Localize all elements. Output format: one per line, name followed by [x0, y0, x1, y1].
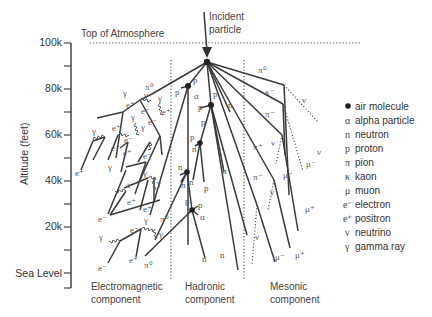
svg-text:κ: κ [345, 171, 350, 182]
svg-text:n: n [178, 162, 183, 172]
legend-air-molecule: air molecule [355, 101, 409, 112]
svg-text:e⁻: e⁻ [130, 225, 139, 235]
em-component-label-line1: Electromagnetic [91, 281, 163, 292]
svg-text:e⁺: e⁺ [126, 100, 135, 110]
mesonic-component-label-line1: Mesonic [270, 281, 307, 292]
legend-electron: electron [355, 199, 391, 210]
tick-80k: 80k [45, 82, 63, 94]
svg-text:n: n [192, 144, 197, 154]
svg-text:p: p [193, 75, 198, 85]
svg-text:p: p [185, 196, 190, 206]
svg-text:ν: ν [255, 232, 259, 242]
svg-text:γ: γ [130, 112, 135, 122]
cosmic-ray-shower-diagram: Incident particle Top of Atmosphere 100k… [0, 0, 432, 317]
svg-text:μ: μ [345, 185, 350, 196]
hadronic-component-label-line2: component [185, 294, 235, 305]
svg-text:μ⁻: μ⁻ [283, 170, 293, 180]
svg-text:μ⁺: μ⁺ [305, 204, 315, 214]
svg-text:e⁺: e⁺ [162, 107, 171, 117]
tick-60k: 60k [45, 128, 63, 140]
svg-text:p: p [198, 102, 203, 112]
em-component-label-line2: component [91, 294, 141, 305]
svg-text:γ: γ [142, 168, 147, 178]
svg-text:π⁰: π⁰ [160, 214, 169, 224]
legend-positron: positron [355, 213, 391, 224]
svg-text:e⁻: e⁻ [343, 199, 352, 210]
top-of-atmosphere-label: Top of Atmosphere [81, 28, 165, 39]
svg-text:γ: γ [140, 122, 145, 132]
svg-text:p: p [198, 200, 203, 210]
svg-text:μ⁻: μ⁻ [275, 252, 285, 262]
svg-text:e⁺: e⁺ [127, 197, 136, 207]
tick-100k: 100k [39, 36, 63, 48]
svg-text:κ⁻: κ⁻ [265, 87, 275, 97]
tick-40k: 40k [45, 174, 63, 186]
svg-text:n: n [220, 250, 225, 260]
mesonic-component-label-line2: component [270, 294, 320, 305]
svg-text:π⁺: π⁺ [253, 142, 263, 152]
svg-text:e⁺: e⁺ [343, 213, 352, 224]
svg-text:e⁻: e⁻ [143, 151, 152, 161]
svg-text:α: α [200, 212, 205, 222]
svg-text:α: α [222, 166, 227, 176]
legend-neutrino: neutrino [355, 227, 392, 238]
svg-text:e⁺: e⁺ [75, 168, 84, 178]
svg-text:ν: ν [302, 95, 306, 105]
svg-text:e⁺: e⁺ [112, 123, 121, 133]
svg-text:n: n [202, 254, 207, 264]
legend-proton: proton [355, 143, 383, 154]
svg-text:e⁺: e⁺ [123, 148, 132, 158]
svg-text:e⁻: e⁻ [127, 180, 136, 190]
svg-text:γ: γ [157, 93, 162, 103]
svg-text:ν: ν [345, 227, 350, 238]
svg-text:e⁻: e⁻ [124, 135, 133, 145]
incident-label-line2: particle [209, 24, 242, 35]
legend-muon: muon [355, 185, 380, 196]
svg-text:π⁻: π⁻ [265, 109, 275, 119]
svg-text:α: α [194, 91, 199, 101]
legend-pion: pion [355, 157, 374, 168]
svg-text:n: n [345, 129, 350, 140]
svg-text:π: π [345, 157, 350, 168]
tick-20k: 20k [45, 220, 63, 232]
svg-text:γ: γ [91, 126, 96, 136]
svg-text:π⁻: π⁻ [253, 172, 263, 182]
svg-text:π⁰: π⁰ [144, 260, 153, 270]
svg-text:γ: γ [98, 232, 103, 242]
svg-text:ν: ν [271, 138, 275, 148]
svg-text:γ: γ [107, 162, 112, 172]
legend-neutron: neutron [355, 129, 389, 140]
svg-text:n: n [181, 180, 186, 190]
svg-text:p: p [201, 117, 206, 127]
svg-text:e⁻: e⁻ [148, 117, 157, 127]
tick-sea-level: Sea Level [15, 267, 62, 279]
svg-text:p: p [204, 183, 209, 193]
svg-text:p: p [175, 87, 180, 97]
svg-text:ν: ν [317, 147, 321, 157]
svg-text:e⁻: e⁻ [98, 214, 107, 224]
svg-text:π⁰: π⁰ [258, 65, 267, 75]
legend: α n p π κ μ e⁻ e⁺ ν γ air molecule alpha… [343, 101, 415, 252]
svg-text:p: p [190, 132, 195, 142]
svg-text:α: α [345, 115, 351, 126]
svg-text:μ⁺: μ⁺ [295, 250, 305, 260]
svg-text:γ: γ [143, 90, 148, 100]
svg-text:γ: γ [156, 178, 161, 188]
svg-text:γ: γ [143, 215, 148, 225]
svg-text:p: p [345, 143, 350, 154]
svg-text:e⁺: e⁺ [129, 255, 138, 265]
svg-text:γ: γ [158, 229, 163, 239]
svg-text:n: n [189, 177, 194, 187]
svg-text:e⁻: e⁻ [111, 143, 120, 153]
svg-text:e⁻: e⁻ [98, 263, 107, 273]
incident-label-line1: Incident [209, 11, 244, 22]
svg-text:γ: γ [122, 88, 127, 98]
hadronic-component-label-line1: Hadronic [185, 281, 225, 292]
air-molecule-legend-icon [345, 103, 351, 109]
axis-label: Altitude (feet) [18, 123, 30, 185]
legend-alpha-particle: alpha particle [355, 115, 415, 126]
svg-text:e⁺: e⁺ [143, 204, 152, 214]
svg-text:γ: γ [344, 241, 350, 252]
svg-text:n: n [228, 100, 233, 110]
legend-gamma-ray: gamma ray [355, 241, 405, 252]
